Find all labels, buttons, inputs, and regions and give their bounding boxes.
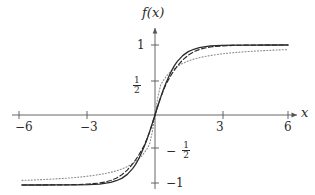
y-axis-arrowhead [153,28,158,34]
fraction-numerator: 1 [182,141,190,150]
fraction-one-half: 1 2 [182,141,190,161]
function-plot-figure: f(x) x −6 −3 3 6 1 1 2 − 1 2 −1 [0,0,315,195]
y-tick-label-1: 1 [137,39,145,51]
fraction-one-half: 1 2 [133,76,141,96]
fraction-denominator: 2 [133,85,141,95]
fraction-numerator: 1 [133,76,141,85]
plot-canvas [0,0,315,195]
x-tick-label-3: 3 [216,121,224,133]
y-axis-name-label: f(x) [142,6,164,19]
x-tick-label-minus3: −3 [80,121,98,133]
x-tick-label-6: 6 [284,121,292,133]
y-tick-label-minus1: −1 [166,177,184,189]
x-tick-label-minus6: −6 [15,121,33,133]
axes-group [12,28,297,189]
minus-sign: − [166,145,176,157]
x-axis-arrowhead [292,113,298,118]
fraction-denominator: 2 [182,150,190,160]
x-axis-name-label: x [301,106,308,119]
y-tick-label-one-half: 1 2 [133,76,141,96]
negative-fraction-group: − 1 2 [166,141,190,161]
y-tick-label-minus-one-half: − 1 2 [166,141,190,161]
